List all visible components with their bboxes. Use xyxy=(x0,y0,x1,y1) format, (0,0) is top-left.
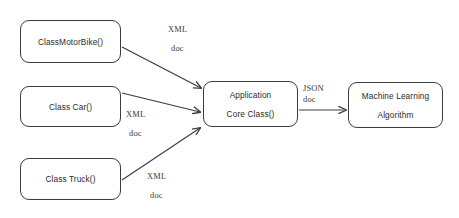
node-label: Machine Learning xyxy=(362,91,430,101)
edge-label-motorbike-to-core: XML doc xyxy=(168,25,187,53)
edge-label-format: XML xyxy=(126,110,145,119)
node-class-motorbike[interactable]: ClassMotorBike() xyxy=(20,20,121,63)
node-label-second-line: Core Class() xyxy=(227,109,275,119)
edge-label-format: JSON xyxy=(303,84,324,93)
edge-label-doc: doc xyxy=(303,95,324,104)
edge-label-format: XML xyxy=(147,172,166,181)
node-class-truck[interactable]: Class Truck() xyxy=(20,158,121,200)
edge-motorbike-to-core xyxy=(122,47,201,88)
edge-label-doc: doc xyxy=(129,129,145,138)
edge-label-doc: doc xyxy=(171,44,187,53)
node-label: Application xyxy=(230,90,272,100)
node-class-car[interactable]: Class Car() xyxy=(20,86,121,127)
edge-label-core-to-ml: JSON doc xyxy=(303,84,324,104)
node-label: ClassMotorBike() xyxy=(38,37,103,47)
node-machine-learning-algorithm[interactable]: Machine Learning Algorithm xyxy=(348,82,443,128)
diagram-canvas: ClassMotorBike() Class Car() Class Truck… xyxy=(0,0,459,218)
edge-label-truck-to-core: XML doc xyxy=(147,172,166,200)
node-label: Class Truck() xyxy=(45,174,95,184)
node-label: Class Car() xyxy=(49,102,92,112)
node-application-core-class[interactable]: Application Core Class() xyxy=(203,81,298,127)
edge-label-car-to-core: XML doc xyxy=(126,110,145,138)
edge-label-doc: doc xyxy=(150,191,166,200)
edge-label-format: XML xyxy=(168,25,187,34)
node-label-second-line: Algorithm xyxy=(378,110,414,120)
